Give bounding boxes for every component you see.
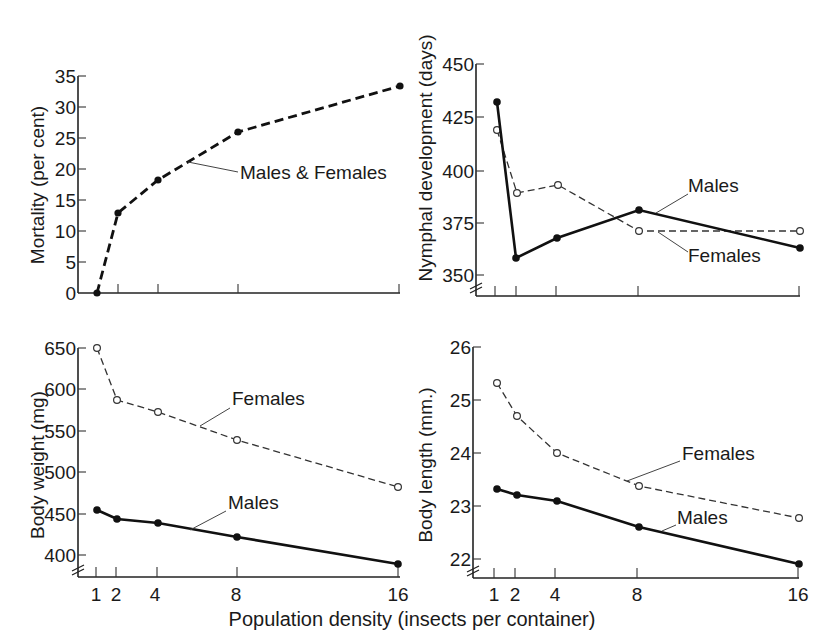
series-line-males-females bbox=[97, 86, 400, 293]
ytick-label: 10 bbox=[55, 221, 76, 242]
ytick-label: 350 bbox=[442, 265, 474, 286]
ytick-label: 25 bbox=[450, 390, 471, 411]
x-tick-labels: 1 2 4 8 16 bbox=[91, 584, 409, 605]
x-ticks bbox=[495, 286, 799, 296]
ytick-label: 425 bbox=[442, 107, 474, 128]
annotation-leader-females bbox=[627, 461, 680, 481]
xtick-label: 2 bbox=[111, 584, 122, 605]
xtick-label: 8 bbox=[632, 584, 643, 605]
xtick-label: 4 bbox=[150, 584, 161, 605]
xtick-label: 1 bbox=[489, 584, 500, 605]
series-line-males bbox=[497, 102, 800, 258]
annotation-leader-males bbox=[656, 194, 688, 213]
annotation-leader-males bbox=[190, 511, 226, 530]
x-tick-labels: 1 2 4 8 16 bbox=[489, 584, 809, 605]
annotation-leader-females bbox=[658, 232, 688, 252]
ytick-label: 375 bbox=[442, 213, 474, 234]
y-tick-labels: 400 450 500 550 600 650 bbox=[44, 338, 76, 566]
ytick-label: 23 bbox=[450, 496, 471, 517]
series-markers-females bbox=[494, 380, 803, 522]
annotation-leader-females bbox=[200, 408, 230, 426]
panel-body-weight: 400 450 500 550 600 650 1 2 4 8 16 Body … bbox=[27, 338, 409, 605]
x-axis-title: Population density (insects per containe… bbox=[0, 608, 824, 631]
y-ticks bbox=[473, 347, 481, 559]
xtick-label: 2 bbox=[510, 584, 521, 605]
annotation-males-females: Males & Females bbox=[240, 162, 387, 183]
y-axis-label: Mortality (per cent) bbox=[27, 106, 48, 264]
xtick-label: 8 bbox=[231, 584, 242, 605]
xtick-label: 1 bbox=[91, 584, 102, 605]
x-ticks bbox=[494, 568, 798, 578]
series-line-males bbox=[97, 510, 398, 564]
panel-nymphal: 350 375 400 425 450 Nymphal development … bbox=[415, 34, 804, 296]
annotation-females: Females bbox=[688, 245, 761, 266]
ytick-label: 35 bbox=[55, 66, 76, 87]
ytick-label: 450 bbox=[442, 54, 474, 75]
xtick-label: 4 bbox=[550, 584, 561, 605]
y-tick-labels: 22 23 24 25 26 bbox=[450, 337, 472, 570]
ytick-label: 5 bbox=[65, 252, 76, 273]
series-line-females bbox=[497, 130, 800, 231]
ytick-label: 24 bbox=[450, 443, 472, 464]
panel-body-length: 22 23 24 25 26 1 2 4 8 16 Body length (m… bbox=[415, 337, 809, 605]
y-tick-labels: 0 5 10 15 20 25 30 35 bbox=[55, 66, 76, 304]
annotation-males: Males bbox=[677, 507, 728, 528]
y-axis-label: Body weight (mg) bbox=[27, 391, 48, 539]
ytick-label: 400 bbox=[442, 161, 474, 182]
annotation-males: Males bbox=[688, 175, 739, 196]
ytick-label: 550 bbox=[44, 421, 76, 442]
ytick-label: 400 bbox=[44, 545, 76, 566]
panel-mortality: 0 5 10 15 20 25 30 35 Mortality (per cen… bbox=[27, 66, 404, 304]
ytick-label: 15 bbox=[55, 190, 76, 211]
ytick-label: 650 bbox=[44, 338, 76, 359]
ytick-label: 500 bbox=[44, 462, 76, 483]
x-ticks bbox=[118, 284, 399, 293]
annotation-leader-males bbox=[662, 525, 676, 531]
ytick-label: 0 bbox=[65, 283, 76, 304]
ytick-label: 30 bbox=[55, 97, 76, 118]
xtick-label: 16 bbox=[387, 584, 408, 605]
y-axis-label: Body length (mm.) bbox=[415, 387, 436, 542]
annotation-females: Females bbox=[232, 388, 305, 409]
y-ticks bbox=[78, 76, 86, 262]
annotation-leader bbox=[188, 162, 238, 172]
y-axis-label: Nymphal development (days) bbox=[415, 34, 436, 281]
annotation-females: Females bbox=[682, 443, 755, 464]
ytick-label: 450 bbox=[44, 504, 76, 525]
ytick-label: 600 bbox=[44, 379, 76, 400]
series-markers-males-females bbox=[93, 82, 403, 296]
series-markers-males bbox=[93, 506, 402, 568]
ytick-label: 26 bbox=[450, 337, 471, 358]
xtick-label: 16 bbox=[787, 584, 808, 605]
ytick-label: 22 bbox=[450, 549, 471, 570]
series-markers-females bbox=[494, 127, 804, 235]
series-line-males bbox=[497, 489, 799, 564]
annotation-males: Males bbox=[228, 492, 279, 513]
series-markers-females bbox=[94, 345, 402, 491]
ytick-label: 25 bbox=[55, 128, 76, 149]
x-ticks bbox=[96, 567, 398, 577]
y-ticks bbox=[476, 64, 484, 275]
y-tick-labels: 350 375 400 425 450 bbox=[442, 54, 474, 286]
figure-canvas: 0 5 10 15 20 25 30 35 Mortality (per cen… bbox=[0, 0, 824, 639]
ytick-label: 20 bbox=[55, 159, 76, 180]
series-line-females bbox=[97, 348, 398, 487]
y-ticks bbox=[78, 348, 86, 555]
